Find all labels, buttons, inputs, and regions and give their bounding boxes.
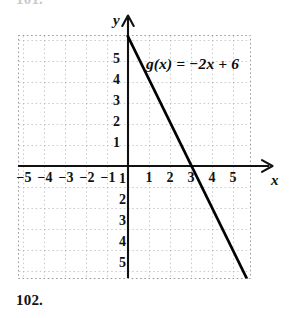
tick-label-x-neg-2: −2 xyxy=(77,171,97,185)
tick-label-x-1: 1 xyxy=(139,171,159,185)
tick-label-y-neg-5: 5 xyxy=(119,256,135,270)
tick-label-y-5: 5 xyxy=(104,52,120,66)
bottom-caption: 102. xyxy=(16,292,43,309)
tick-label-x-4: 4 xyxy=(202,171,222,185)
tick-label-x-neg-5: −5 xyxy=(14,171,34,185)
tick-label-x-3: 3 xyxy=(181,171,201,185)
tick-label-y-3: 3 xyxy=(104,94,120,108)
tick-label-y-neg-3: 3 xyxy=(119,214,135,228)
tick-label-x-5: 5 xyxy=(223,171,243,185)
tick-label-y-neg-2: 2 xyxy=(119,193,135,207)
tick-label-x-neg-1: −1 xyxy=(98,171,118,185)
tick-label-x-neg-3: −3 xyxy=(56,171,76,185)
tick-label-y-neg-1: 1 xyxy=(119,172,135,186)
x-axis-label: x xyxy=(271,172,279,189)
coordinate-plane-svg xyxy=(0,0,295,290)
tick-label-x-2: 2 xyxy=(160,171,180,185)
y-axis-label: y xyxy=(113,12,120,29)
tick-label-y-neg-4: 4 xyxy=(119,235,135,249)
tick-label-y-4: 4 xyxy=(104,73,120,87)
tick-label-y-2: 2 xyxy=(104,115,120,129)
tick-label-x-neg-4: −4 xyxy=(35,171,55,185)
function-equation-label: g(x) = −2x + 6 xyxy=(146,55,239,73)
graph-figure: 101. xyxy=(0,0,295,318)
tick-label-y-1: 1 xyxy=(104,136,120,150)
coordinate-plane xyxy=(0,0,295,290)
